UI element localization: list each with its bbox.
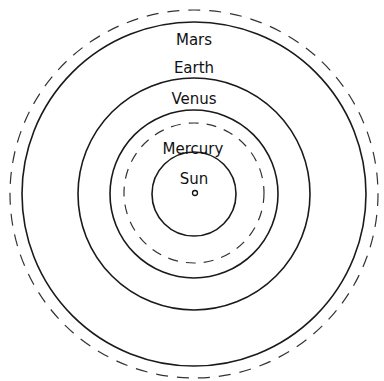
sun-dot — [193, 191, 198, 196]
venus-label: Venus — [171, 90, 216, 108]
venus-orbit — [110, 110, 278, 278]
earth-orbit — [78, 78, 310, 310]
solar-orbit-diagram: Mars Earth Venus Mercury Sun — [0, 0, 384, 381]
mars-label: Mars — [176, 31, 212, 49]
sun-label: Sun — [180, 170, 209, 188]
mercury-label: Mercury — [163, 140, 224, 158]
sun-circle — [152, 152, 236, 236]
earth-label: Earth — [174, 59, 214, 77]
